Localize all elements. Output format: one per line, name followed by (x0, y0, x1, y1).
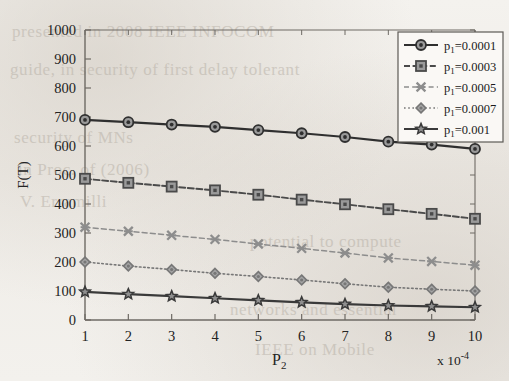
series-marker (166, 291, 177, 301)
x-tick-label: 3 (168, 328, 175, 344)
legend-label-value: =0.0001 (455, 39, 496, 53)
series-line (85, 262, 475, 291)
series-marker (123, 289, 134, 299)
series-marker (383, 300, 394, 310)
series-marker-core (127, 181, 130, 184)
x-tick-label: 8 (385, 328, 392, 344)
legend-label-value: =0.0005 (455, 81, 496, 95)
series-marker-core (387, 286, 390, 289)
series-marker-core (300, 131, 304, 135)
series-marker (340, 298, 351, 308)
y-tick-label: 800 (54, 80, 76, 96)
series-marker-core (170, 185, 173, 188)
y-tick-label: 1000 (47, 22, 76, 38)
series-marker-core (257, 275, 260, 278)
x-tick-label: 7 (341, 328, 348, 344)
x-tick-label: 9 (428, 328, 435, 344)
y-tick-label: 200 (54, 254, 76, 270)
series-marker-core (430, 212, 433, 215)
series-marker-core (83, 177, 86, 180)
series-marker (210, 293, 221, 303)
y-tick-label: 100 (54, 283, 76, 299)
series-marker-core (213, 189, 216, 192)
x-tick-label: 1 (81, 328, 88, 344)
series-line (85, 227, 475, 265)
series-marker-core (387, 208, 390, 211)
series-marker-core (473, 217, 476, 220)
series-3 (81, 223, 480, 270)
x-axis-title-subscript: 2 (281, 359, 287, 371)
series-marker-core (257, 193, 260, 196)
series-5 (80, 286, 481, 312)
series-marker (296, 297, 307, 307)
series-marker-core (300, 278, 303, 281)
legend-label-value: =0.0007 (455, 102, 496, 116)
legend-marker-4-core (419, 106, 422, 109)
series-marker-core (83, 260, 86, 263)
series-marker-core (473, 147, 477, 151)
x-tick-label: 2 (125, 328, 132, 344)
x-tick-label: 4 (211, 328, 219, 344)
series-marker (426, 301, 437, 311)
series-marker-core (83, 118, 87, 122)
series-marker-core (256, 128, 260, 132)
series-marker-core (300, 198, 303, 201)
series-marker-core (213, 272, 216, 275)
series-marker-core (343, 135, 347, 139)
legend-marker-2-core (419, 64, 422, 67)
legend-label-value: =0.0003 (455, 60, 496, 74)
plot-svg: 0100200300400500600700800900100012345678… (0, 0, 509, 381)
x-axis-multiplier: x 10-4 (437, 350, 469, 368)
series-line (85, 292, 475, 307)
y-tick-label: 300 (54, 225, 76, 241)
series-line (85, 179, 475, 219)
x-axis-multiplier-exponent: -4 (461, 350, 469, 361)
x-tick-label: 10 (468, 328, 483, 344)
y-tick-label: 0 (69, 312, 76, 328)
y-tick-label: 400 (54, 196, 76, 212)
x-tick-label: 5 (255, 328, 262, 344)
series-marker (470, 302, 481, 312)
y-tick-label: 700 (54, 109, 76, 125)
series-marker-core (430, 288, 433, 291)
y-axis-title: F(T) (15, 161, 32, 189)
series-marker (80, 286, 91, 296)
x-tick-label: 6 (298, 328, 305, 344)
legend-label-value: =0.001 (455, 123, 490, 137)
series-marker-core (170, 268, 173, 271)
series-2 (80, 174, 480, 224)
series-marker-core (343, 203, 346, 206)
x-axis-title: P2 (272, 351, 286, 371)
y-tick-label: 900 (54, 51, 76, 67)
series-marker (253, 295, 264, 305)
series-marker-core (213, 125, 217, 129)
series-marker-core (126, 120, 130, 124)
legend: p1=0.0001p1=0.0003p1=0.0005p1=0.0007p1=0… (398, 32, 503, 142)
series-marker-core (430, 143, 434, 147)
y-tick-label: 600 (54, 138, 76, 154)
series-marker-core (170, 123, 174, 127)
legend-marker-1-core (419, 43, 423, 47)
series-marker-core (386, 140, 390, 144)
series-4 (80, 257, 480, 296)
series-marker-core (127, 264, 130, 267)
chart-figure: 0100200300400500600700800900100012345678… (0, 0, 509, 381)
series-marker-core (473, 289, 476, 292)
y-tick-label: 500 (54, 167, 76, 183)
series-marker-core (343, 282, 346, 285)
